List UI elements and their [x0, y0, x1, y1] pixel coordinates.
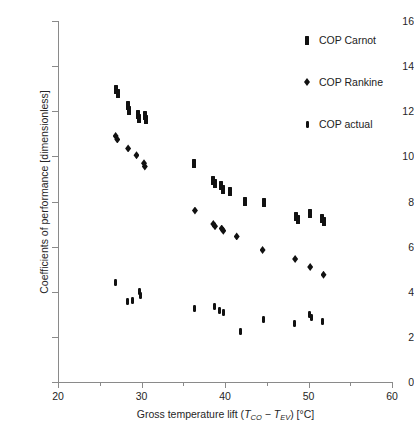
legend-item-cop-actual: COP actual [300, 116, 414, 132]
x-tick [392, 382, 393, 388]
data-point [293, 320, 296, 327]
data-point [260, 246, 266, 254]
legend-marker-actual-icon [300, 118, 316, 130]
x-minor-tick [183, 382, 184, 386]
x-tick-label: 50 [289, 391, 329, 401]
x-tick-label: 60 [372, 391, 412, 401]
legend-marker-rankine-icon [300, 76, 316, 88]
data-point [321, 318, 324, 325]
y-tick [52, 66, 58, 67]
data-point [144, 115, 148, 124]
y-tick [52, 111, 58, 112]
legend-label-cop-carnot: COP Carnot [316, 34, 376, 46]
data-point [321, 271, 327, 279]
y-tick-label: 16 [368, 16, 414, 26]
data-point [222, 309, 225, 316]
data-point [234, 232, 240, 240]
data-point [307, 263, 313, 271]
legend-label-cop-rankine: COP Rankine [316, 76, 383, 88]
data-point [228, 187, 232, 196]
x-tick [58, 382, 59, 388]
x-tick-label: 20 [38, 391, 78, 401]
y-tick-label: 0 [368, 377, 414, 387]
data-point [262, 198, 266, 207]
scatter-chart-figure: 0246810121416 2030405060 Coefficients of… [0, 0, 414, 446]
data-point [322, 217, 326, 226]
y-tick [52, 156, 58, 157]
data-point [213, 179, 217, 188]
data-point [213, 303, 216, 310]
data-point [139, 292, 142, 299]
data-point [243, 197, 247, 206]
data-point [220, 227, 226, 235]
y-tick [52, 292, 58, 293]
data-point [218, 307, 221, 314]
x-minor-tick [350, 382, 351, 386]
x-minor-tick [267, 382, 268, 386]
data-point [125, 144, 131, 152]
x-axis-title: Gross temperature lift (TCO − TEV) [°C] [58, 408, 393, 422]
x-tick-label: 40 [205, 391, 245, 401]
y-axis-title: Coefficients of performance [dimensionle… [38, 52, 50, 332]
y-tick [52, 247, 58, 248]
data-point [142, 163, 148, 171]
y-tick [52, 337, 58, 338]
chart-legend: COP Carnot COP Rankine COP actual [300, 32, 414, 158]
x-axis-title-text: Gross temperature lift (TCO − TEV) [°C] [137, 408, 314, 420]
x-tick [225, 382, 226, 388]
y-tick-label: 6 [368, 242, 414, 252]
data-point [133, 151, 139, 159]
legend-item-cop-carnot: COP Carnot [300, 32, 414, 48]
data-point [212, 222, 218, 230]
data-point [126, 298, 129, 305]
x-tick [309, 382, 310, 388]
y-axis-line [58, 21, 59, 383]
data-point [114, 135, 120, 143]
data-point [192, 159, 196, 168]
data-point [192, 207, 198, 215]
data-point [296, 215, 300, 224]
data-point [137, 114, 141, 123]
data-point [292, 255, 298, 263]
y-tick-label: 2 [368, 332, 414, 342]
data-point [310, 314, 313, 321]
data-point [262, 316, 265, 323]
x-tick [142, 382, 143, 388]
data-point [127, 106, 131, 115]
data-point [221, 185, 225, 194]
legend-label-cop-actual: COP actual [316, 118, 373, 130]
data-point [193, 305, 196, 312]
legend-marker-carnot-icon [300, 34, 316, 46]
data-point [114, 279, 117, 286]
legend-item-cop-rankine: COP Rankine [300, 74, 414, 90]
x-minor-tick [100, 382, 101, 386]
data-point [239, 328, 242, 335]
y-tick-label: 4 [368, 287, 414, 297]
y-tick-label: 8 [368, 197, 414, 207]
x-tick-label: 30 [122, 391, 162, 401]
data-point [131, 297, 134, 304]
data-point [308, 209, 312, 218]
y-tick [52, 202, 58, 203]
y-tick [52, 21, 58, 22]
data-point [116, 89, 120, 98]
